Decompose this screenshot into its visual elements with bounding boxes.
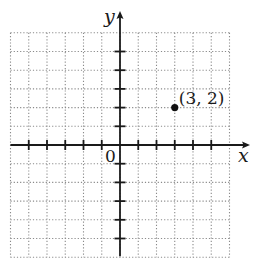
origin-label: 0 xyxy=(105,146,116,166)
coordinate-plane: x y 0 (3, 2) xyxy=(0,0,253,265)
x-axis-label: x xyxy=(238,144,249,166)
y-axis-label: y xyxy=(103,5,115,27)
point-label: (3, 2) xyxy=(179,88,225,108)
plotted-point xyxy=(171,104,178,111)
